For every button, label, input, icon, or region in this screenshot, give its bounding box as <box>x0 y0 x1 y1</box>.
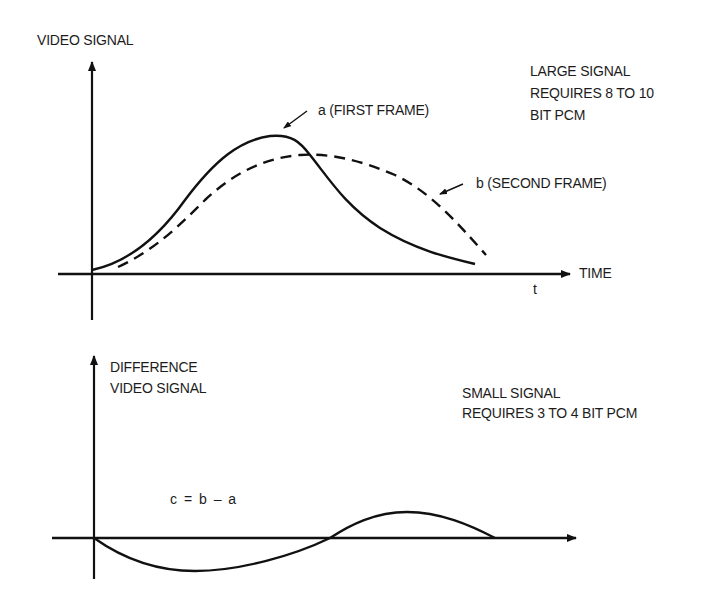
curve-a-pointer-arrow <box>284 111 307 128</box>
curve-b-second-frame <box>118 155 486 267</box>
large-signal-note-line-2: REQUIRES 8 TO 10 <box>530 82 654 104</box>
x-axis-t-symbol: t <box>533 280 537 298</box>
top-y-axis-label: VIDEO SIGNAL <box>37 31 133 49</box>
large-signal-note-line-3: BIT PCM <box>530 104 654 126</box>
bottom-y-axis-label-line-1: DIFFERENCE <box>110 357 206 378</box>
curve-a-label: a (FIRST FRAME) <box>318 101 429 119</box>
curve-b-label: b (SECOND FRAME) <box>476 174 607 192</box>
large-signal-note-line-1: LARGE SIGNAL <box>530 60 654 82</box>
x-axis-time-label: TIME <box>579 264 612 282</box>
bottom-y-axis-label-line-2: VIDEO SIGNAL <box>110 378 206 399</box>
curve-c-difference <box>94 512 495 571</box>
bottom-y-axis-label: DIFFERENCE VIDEO SIGNAL <box>110 357 206 399</box>
small-signal-note: SMALL SIGNAL REQUIRES 3 TO 4 BIT PCM <box>462 383 637 423</box>
curve-a-first-frame <box>92 136 475 270</box>
curve-b-pointer-arrow <box>440 184 463 194</box>
difference-equation: c = b – a <box>170 490 238 508</box>
small-signal-note-line-1: SMALL SIGNAL <box>462 383 637 403</box>
small-signal-note-line-2: REQUIRES 3 TO 4 BIT PCM <box>462 403 637 423</box>
large-signal-note: LARGE SIGNAL REQUIRES 8 TO 10 BIT PCM <box>530 60 654 126</box>
